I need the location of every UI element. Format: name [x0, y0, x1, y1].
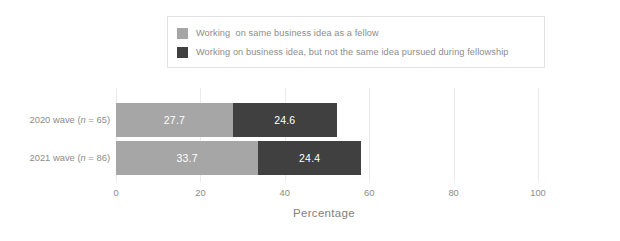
legend-entry-working-same-idea: Working on same business idea as a fello… [177, 26, 379, 40]
y-tick-2020-suffix: = 65) [86, 114, 110, 125]
x-axis-title-label: Percentage [265, 207, 355, 219]
bar-value-2021-different-idea: 24.4 [299, 152, 320, 164]
gridline [454, 88, 455, 182]
y-axis-tick-2021-wave: 2021 wave (n = 86) [0, 152, 110, 163]
y-axis-tick-2020-wave: 2020 wave (n = 65) [0, 114, 110, 125]
legend-swatch-light-icon [177, 28, 188, 39]
gridline [538, 88, 539, 182]
legend-label-working-same-idea: Working on same business idea as a fello… [196, 28, 379, 39]
y-axis-tick-labels: 2020 wave (n = 65) 2021 wave (n = 86) [0, 88, 110, 182]
legend-entry-working-different-idea: Working on business idea, but not the sa… [177, 45, 509, 59]
legend-label-working-different-idea: Working on business idea, but not the sa… [196, 47, 509, 58]
bar-value-2021-same-idea: 33.7 [176, 152, 197, 164]
x-axis-tick-label: 20 [195, 187, 205, 198]
chart-figure: Working on same business idea as a fello… [0, 0, 620, 241]
y-tick-2021-prefix: 2021 wave ( [29, 152, 80, 163]
x-axis-tick-label: 80 [448, 187, 458, 198]
x-axis-title: Percentage [0, 207, 620, 219]
y-tick-2020-prefix: 2020 wave ( [29, 114, 80, 125]
x-axis-tick-label: 100 [530, 187, 546, 198]
x-axis-tick-label: 40 [280, 187, 290, 198]
bar-value-2020-same-idea: 27.7 [164, 114, 185, 126]
x-axis-tick-label: 0 [113, 187, 118, 198]
bar-segment-2020-different-idea: 24.6 [233, 103, 337, 137]
x-axis-tick-label: 60 [364, 187, 374, 198]
legend-swatch-dark-icon [177, 47, 188, 58]
bar-segment-2021-different-idea: 24.4 [258, 141, 361, 175]
table-row: 33.7 24.4 [116, 141, 361, 175]
plot-area: 27.7 24.6 33.7 24.4 [116, 88, 538, 182]
bar-segment-2020-same-idea: 27.7 [116, 103, 233, 137]
bar-segment-2021-same-idea: 33.7 [116, 141, 258, 175]
gridline [369, 88, 370, 182]
y-tick-2021-suffix: = 86) [86, 152, 110, 163]
bar-value-2020-different-idea: 24.6 [274, 114, 295, 126]
table-row: 27.7 24.6 [116, 103, 337, 137]
x-axis: 020406080100 [116, 182, 538, 206]
chart-legend: Working on same business idea as a fello… [167, 16, 545, 68]
